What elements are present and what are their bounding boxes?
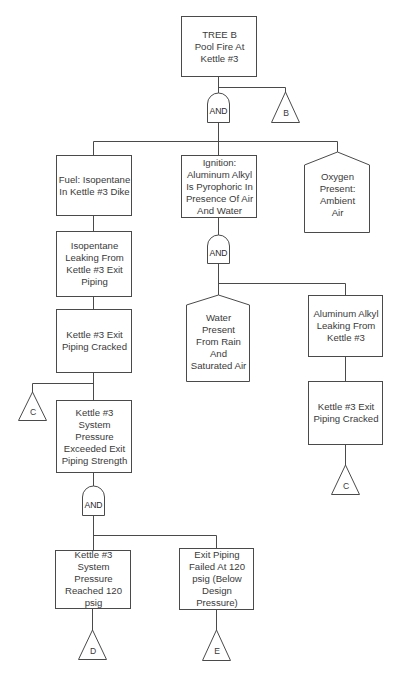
piping-cracked-right-label: Kettle #3 Exit Piping Cracked [309, 382, 383, 444]
transfer-c-right-label: C [339, 480, 353, 492]
fuel-event-label: Fuel: Isopentane In Kettle #3 Dike [57, 156, 132, 215]
ignition-event-label: Ignition: Aluminum Alkyl Is Pyrophoric I… [182, 156, 257, 217]
transfer-e-label: E [210, 645, 224, 657]
transfer-c-left-label: C [26, 406, 40, 418]
alkyl-leak-label: Aluminum Alkyl Leaking From Kettle #3 [309, 296, 383, 356]
water-event-label: Water Present From Rain And Saturated Ai… [187, 304, 250, 380]
pressure-exceeded-label: Kettle #3 System Pressure Exceeded Exit … [57, 401, 132, 472]
fault-tree-diagram: TREE B Pool Fire At Kettle #3 Fuel: Isop… [0, 0, 396, 683]
oxygen-event-label: Oxygen Present: Ambient Air [305, 163, 370, 227]
piping-cracked-left-label: Kettle #3 Exit Piping Cracked [57, 310, 132, 372]
and-gate-ignition-label: AND [207, 246, 230, 260]
and-gate-pressure-label: AND [82, 498, 105, 512]
transfer-b-label: B [279, 107, 293, 119]
and-gate-top-label: AND [207, 104, 230, 118]
isopentane-leak-label: Isopentane Leaking From Kettle #3 Exit P… [57, 232, 132, 296]
pressure-reached-label: Kettle #3 System Pressure Reached 120 ps… [56, 550, 131, 608]
transfer-d-label: D [86, 645, 100, 657]
piping-failed-label: Exit Piping Failed At 120 psig (Below De… [180, 548, 254, 609]
top-event-label: TREE B Pool Fire At Kettle #3 [182, 17, 257, 77]
